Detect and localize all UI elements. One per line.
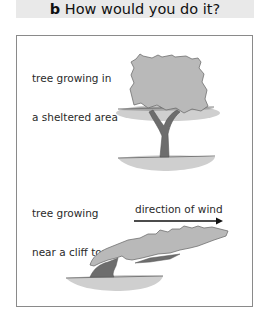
illustration xyxy=(0,0,269,327)
wind-arrow-icon xyxy=(134,218,223,225)
sheltered-tree-icon xyxy=(116,54,220,121)
windswept-tree-icon xyxy=(66,226,228,291)
